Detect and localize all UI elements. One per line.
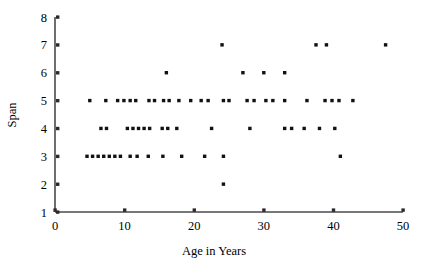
data-point xyxy=(283,99,286,102)
x-tick-label: 40 xyxy=(327,219,340,233)
data-point xyxy=(162,99,165,102)
x-tick-mark xyxy=(193,208,196,211)
data-point xyxy=(333,127,336,130)
data-point xyxy=(177,99,180,102)
y-tick-mark xyxy=(56,43,59,46)
data-point xyxy=(199,99,202,102)
y-tick-label: 3 xyxy=(41,150,47,164)
data-point xyxy=(283,71,286,74)
data-point xyxy=(165,71,168,74)
data-point xyxy=(116,99,119,102)
x-tick-label: 10 xyxy=(118,219,131,233)
data-point xyxy=(210,127,213,130)
data-point xyxy=(325,43,328,46)
data-point xyxy=(241,71,244,74)
data-point xyxy=(96,155,99,158)
x-tick-mark xyxy=(262,208,265,211)
data-point xyxy=(290,127,293,130)
data-point xyxy=(222,155,225,158)
y-tick-mark xyxy=(56,183,59,186)
axes-group xyxy=(55,17,403,212)
data-point xyxy=(148,127,151,130)
data-point xyxy=(131,127,134,130)
y-tick-label: 2 xyxy=(41,178,47,192)
y-tick-mark xyxy=(56,15,59,18)
data-point xyxy=(88,99,91,102)
data-point xyxy=(271,99,274,102)
data-point xyxy=(248,127,251,130)
x-tick-mark xyxy=(53,208,56,211)
x-tick-mark xyxy=(401,208,404,211)
x-tick-mark xyxy=(332,208,335,211)
data-point xyxy=(314,43,317,46)
y-tick-label: 7 xyxy=(41,38,47,52)
y-tick-mark xyxy=(56,99,59,102)
y-tick-label: 1 xyxy=(41,206,47,220)
data-point xyxy=(339,155,342,158)
data-point xyxy=(128,99,131,102)
data-point xyxy=(99,127,102,130)
data-point xyxy=(262,71,265,74)
data-point xyxy=(160,127,163,130)
y-axis-title: Span xyxy=(5,102,19,128)
x-axis-title: Age in Years xyxy=(182,244,246,258)
data-point xyxy=(122,99,125,102)
data-point xyxy=(220,43,223,46)
data-point xyxy=(305,99,308,102)
data-point xyxy=(91,155,94,158)
y-tick-mark xyxy=(56,71,59,74)
x-tick-label: 30 xyxy=(258,219,271,233)
scatter-plot-figure: 1234567801020304050 Age in Years Span xyxy=(0,0,429,270)
data-point xyxy=(384,43,387,46)
data-point xyxy=(252,99,255,102)
y-tick-mark xyxy=(56,155,59,158)
data-point xyxy=(167,99,170,102)
tick-marks-group xyxy=(53,15,404,213)
data-point xyxy=(147,99,150,102)
data-point xyxy=(134,99,137,102)
y-tick-label: 6 xyxy=(41,66,47,80)
x-tick-label: 50 xyxy=(397,219,410,233)
data-point xyxy=(119,155,122,158)
data-point xyxy=(245,99,248,102)
data-point xyxy=(203,155,206,158)
data-point xyxy=(161,155,164,158)
data-point xyxy=(227,99,230,102)
data-point xyxy=(108,155,111,158)
data-point xyxy=(323,99,326,102)
x-tick-label: 20 xyxy=(188,219,201,233)
data-point xyxy=(147,155,150,158)
data-point xyxy=(283,127,286,130)
data-point xyxy=(175,127,178,130)
x-tick-label: 0 xyxy=(52,219,58,233)
data-point xyxy=(153,99,156,102)
y-tick-label: 4 xyxy=(41,122,48,136)
data-point xyxy=(206,99,209,102)
data-point xyxy=(142,127,145,130)
data-point xyxy=(330,99,333,102)
data-point xyxy=(264,99,267,102)
data-point xyxy=(105,127,108,130)
data-point xyxy=(104,99,107,102)
y-tick-label: 5 xyxy=(41,94,47,108)
data-point xyxy=(222,182,225,185)
data-point xyxy=(166,127,169,130)
data-point xyxy=(126,127,129,130)
data-point xyxy=(135,155,138,158)
data-point xyxy=(180,155,183,158)
data-point xyxy=(189,99,192,102)
data-point xyxy=(102,155,105,158)
data-point xyxy=(222,99,225,102)
data-point xyxy=(85,155,88,158)
plot-canvas: 1234567801020304050 Age in Years Span xyxy=(0,0,429,270)
data-point xyxy=(318,127,321,130)
tick-labels-group: 1234567801020304050 xyxy=(41,11,410,234)
y-tick-mark xyxy=(56,127,59,130)
y-tick-label: 8 xyxy=(41,11,47,25)
data-point xyxy=(351,99,354,102)
data-point xyxy=(113,155,116,158)
data-point xyxy=(128,155,131,158)
data-point xyxy=(302,127,305,130)
data-point xyxy=(337,99,340,102)
data-points-group xyxy=(85,43,387,186)
